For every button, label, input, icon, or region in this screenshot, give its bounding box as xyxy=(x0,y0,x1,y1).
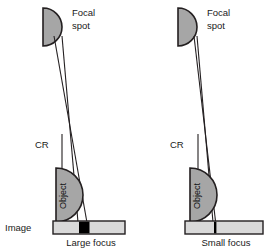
caption-small-focus: Small focus xyxy=(201,237,250,248)
focal-spot-label-left-line1: Focal xyxy=(72,7,95,18)
penumbra-block-left xyxy=(79,222,90,234)
focal-spot-label-right-line1: Focal xyxy=(207,7,230,18)
focal-spot-label-left-line2: spot xyxy=(72,20,90,31)
cr-label-left: CR xyxy=(35,139,49,150)
cr-label-right: CR xyxy=(170,139,184,150)
focal-spot-shape-left xyxy=(43,8,62,46)
caption-large-focus: Large focus xyxy=(66,237,116,248)
focal-spot-label-right-line2: spot xyxy=(207,20,225,31)
object-label-right: Object xyxy=(192,182,202,209)
image-label-left: Image xyxy=(5,222,31,233)
xray-focal-spot-penumbra-diagram: Focal spot CR Image Object Large focus F… xyxy=(0,0,272,250)
object-label-left: Object xyxy=(58,182,68,209)
panel-small-focus: Focal spot CR Object Small focus xyxy=(170,7,263,248)
penumbra-block-right xyxy=(214,222,216,234)
image-receptor-bar-right xyxy=(185,221,263,234)
panel-large-focus: Focal spot CR Image Object Large focus xyxy=(5,7,125,248)
